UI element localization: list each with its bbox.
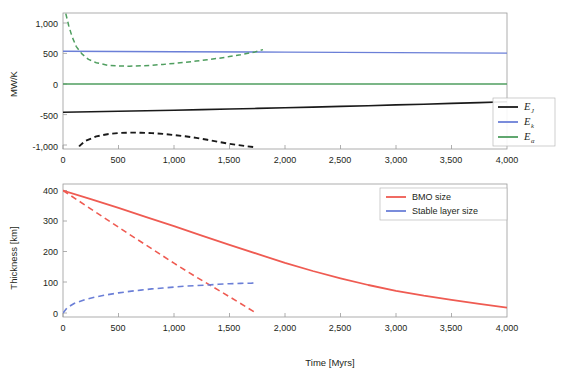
curve-ek-solid [63, 51, 507, 53]
bottom-ytick-0: 0 [53, 309, 58, 319]
bottom-xtick-4000: 4,000 [496, 323, 519, 333]
top-x-tickmarks [63, 145, 452, 149]
bottom-xtick-2500: 2,500 [329, 323, 352, 333]
top-legend-label-ek: E [523, 116, 531, 127]
top-y-axis-label: MW/K [8, 70, 19, 97]
curve-ej-solid [63, 102, 507, 113]
top-panel-svg: MW/K 1,000 500 0 -500 -1,000 0 500 1,000… [0, 0, 565, 180]
top-legend-label-ealpha: E [523, 131, 531, 142]
bottom-ytick-100: 100 [43, 278, 58, 288]
bottom-ytick-200: 200 [43, 247, 58, 257]
top-curves [63, 14, 507, 163]
bottom-y-axis-label: Thickness [km] [8, 226, 19, 289]
top-xtick-4000: 4,000 [496, 155, 519, 165]
bottom-ytick-400: 400 [43, 186, 58, 196]
curve-ealpha-dashed [66, 14, 263, 67]
top-legend-label-ej: E [523, 101, 531, 112]
bottom-xtick-3500: 3,500 [440, 323, 463, 333]
top-ytick-m1000: -1,000 [32, 142, 58, 152]
top-panel-entropy: MW/K 1,000 500 0 -500 -1,000 0 500 1,000… [0, 0, 565, 180]
top-ytick-500: 500 [43, 49, 58, 59]
bottom-panel-thickness: Thickness [km] Time [Myrs] 400 300 200 1… [0, 176, 565, 374]
top-xtick-1000: 1,000 [163, 155, 186, 165]
bottom-legend-label-stable-layer: Stable layer size [412, 206, 478, 216]
top-ytick-m500: -500 [40, 111, 58, 121]
top-legend-sub-ek: k [531, 122, 534, 129]
bottom-panel-svg: Thickness [km] Time [Myrs] 400 300 200 1… [0, 176, 565, 374]
top-plot-frame [63, 13, 507, 149]
top-xtick-0: 0 [60, 155, 65, 165]
bottom-y-tickmarks [63, 191, 67, 314]
bottom-xtick-2000: 2,000 [274, 323, 297, 333]
top-ytick-1000: 1,000 [35, 19, 58, 29]
curve-stable-layer-dashed [63, 283, 256, 313]
bottom-legend: BMO size Stable layer size [380, 188, 507, 220]
figure-container: MW/K 1,000 500 0 -500 -1,000 0 500 1,000… [0, 0, 565, 374]
bottom-ytick-300: 300 [43, 216, 58, 226]
bottom-xtick-0: 0 [60, 323, 65, 333]
curve-bmo-dashed [63, 191, 256, 314]
top-xtick-3000: 3,000 [385, 155, 408, 165]
top-xtick-2500: 2,500 [329, 155, 352, 165]
figure-caption-fragment [0, 364, 565, 374]
bottom-xtick-1000: 1,000 [163, 323, 186, 333]
top-ytick-0: 0 [53, 80, 58, 90]
top-xtick-2000: 2,000 [274, 155, 297, 165]
bottom-xtick-3000: 3,000 [385, 323, 408, 333]
top-xtick-1500: 1,500 [218, 155, 241, 165]
bottom-x-tickmarks [63, 313, 452, 317]
bottom-legend-label-bmo: BMO size [412, 192, 451, 202]
top-legend: E J E k E α [493, 98, 555, 146]
top-xtick-3500: 3,500 [440, 155, 463, 165]
top-xtick-500: 500 [110, 155, 125, 165]
top-legend-sub-ealpha: α [531, 137, 535, 144]
bottom-xtick-500: 500 [110, 323, 125, 333]
bottom-xtick-1500: 1,500 [218, 323, 241, 333]
